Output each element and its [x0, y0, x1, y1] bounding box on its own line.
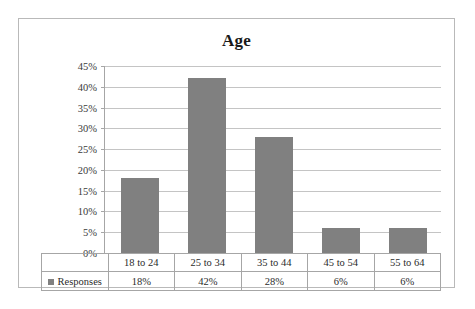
bar-45-to-54 — [322, 228, 360, 253]
plot-area: 45%40%35%30%25%20%15%10%5%0% — [104, 66, 441, 253]
legend-swatch-icon — [48, 279, 54, 285]
y-tick-label: 10% — [78, 206, 97, 217]
y-tick-mark — [101, 170, 105, 171]
y-tick-mark — [101, 149, 105, 150]
table-row-categories: 18 to 2425 to 3435 to 4445 to 5455 to 64 — [42, 254, 441, 272]
bar-slot — [240, 66, 307, 253]
table-cell-category: 45 to 54 — [308, 254, 375, 272]
y-tick-mark — [101, 66, 105, 67]
table-cell-category: 55 to 64 — [374, 254, 441, 272]
y-tick-label: 5% — [83, 227, 97, 238]
legend-responses: Responses — [42, 272, 109, 291]
table-cell-value: 42% — [175, 272, 242, 291]
chart-data-table: 18 to 2425 to 3435 to 4445 to 5455 to 64… — [41, 253, 441, 291]
table-cell-value: 28% — [241, 272, 308, 291]
table-cell-value: 18% — [108, 272, 175, 291]
y-tick-label: 35% — [78, 102, 97, 113]
bar-slot — [307, 66, 374, 253]
table-cell-value: 6% — [374, 272, 441, 291]
table-row-responses: Responses 18%42%28%6%6% — [42, 272, 441, 291]
table-cell-category: 25 to 34 — [175, 254, 242, 272]
table-cell-value: 6% — [308, 272, 375, 291]
table-cell-category: 35 to 44 — [241, 254, 308, 272]
y-tick-label: 20% — [78, 164, 97, 175]
y-tick-label: 40% — [78, 81, 97, 92]
bar-18-to-24 — [121, 178, 159, 253]
y-tick-label: 15% — [78, 185, 97, 196]
y-tick-label: 45% — [78, 61, 97, 72]
table-cell-category: 18 to 24 — [108, 254, 175, 272]
legend-label: Responses — [58, 276, 102, 287]
bar-slot — [374, 66, 441, 253]
y-tick-mark — [101, 211, 105, 212]
bar-35-to-44 — [255, 137, 293, 253]
y-tick-mark — [101, 191, 105, 192]
bar-slot — [106, 66, 173, 253]
y-tick-mark — [101, 87, 105, 88]
bar-55-to-64 — [389, 228, 427, 253]
y-tick-mark — [101, 128, 105, 129]
chart-title: Age — [19, 31, 454, 51]
y-tick-mark — [101, 108, 105, 109]
bar-series-responses — [106, 66, 441, 253]
bar-slot — [173, 66, 240, 253]
table-corner-cell — [42, 254, 109, 272]
bar-25-to-34 — [188, 78, 226, 253]
y-tick-label: 30% — [78, 123, 97, 134]
y-tick-mark — [101, 232, 105, 233]
chart-frame: Age 45%40%35%30%25%20%15%10%5%0% 18 to 2… — [18, 18, 455, 288]
y-tick-label: 25% — [78, 144, 97, 155]
